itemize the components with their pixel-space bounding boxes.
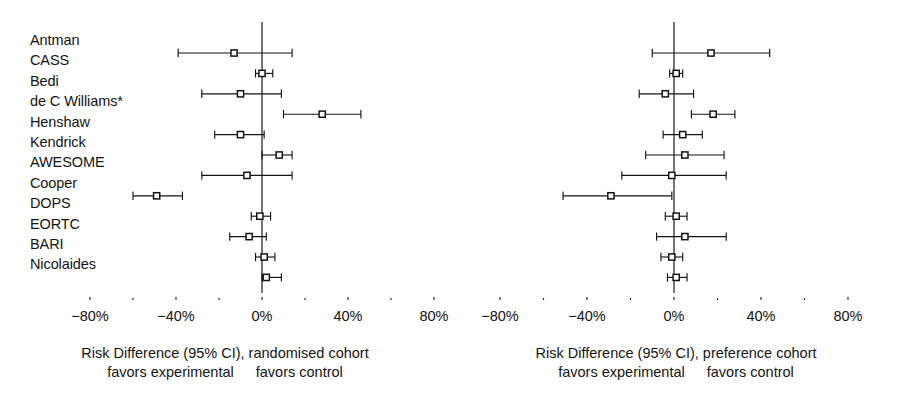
plot-area-left <box>0 0 450 300</box>
x-tick-label: 0% <box>252 308 273 325</box>
forest-panel-randomised: AntmanCASSBedide C Williams*HenshawKendr… <box>0 0 450 414</box>
x-tick-label: 0% <box>664 308 685 325</box>
favors-experimental-label-right: favors experimental <box>558 364 685 380</box>
x-axis-caption-left: Risk Difference (95% CI), randomised coh… <box>0 344 450 382</box>
effect-estimate-marker <box>257 213 263 219</box>
forest-row <box>251 212 270 220</box>
forest-row <box>665 212 687 220</box>
effect-estimate-marker <box>608 193 614 199</box>
forest-plot-svg-right <box>451 0 901 300</box>
forest-row <box>133 192 182 200</box>
effect-estimate-marker <box>682 234 688 240</box>
forest-row <box>215 130 264 138</box>
effect-estimate-marker <box>261 254 267 260</box>
effect-estimate-marker <box>662 91 668 97</box>
forest-row <box>661 253 683 261</box>
forest-row <box>230 232 267 240</box>
x-tick-label: −40% <box>157 308 195 325</box>
forest-row <box>667 273 687 281</box>
x-tick-label: −40% <box>568 308 606 325</box>
effect-estimate-marker <box>708 50 714 56</box>
forest-plot-svg-left <box>0 0 450 300</box>
effect-estimate-marker <box>673 274 679 280</box>
favors-control-label-left: favors control <box>256 364 343 380</box>
caption-favors-left: favors experimental favors control <box>0 363 450 382</box>
caption-main-left: Risk Difference (95% CI), randomised coh… <box>0 344 450 363</box>
forest-row <box>622 171 726 179</box>
effect-estimate-marker <box>231 50 237 56</box>
forest-row <box>646 151 724 159</box>
x-tick-label: 40% <box>333 308 362 325</box>
x-tick-label: 80% <box>419 308 448 325</box>
effect-estimate-marker <box>259 70 265 76</box>
forest-row <box>657 232 727 240</box>
effect-estimate-marker <box>154 193 160 199</box>
favors-control-label-right: favors control <box>707 364 794 380</box>
forest-row <box>652 49 769 57</box>
forest-plot-figure: AntmanCASSBedide C Williams*HenshawKendr… <box>0 0 901 414</box>
effect-estimate-marker <box>246 234 252 240</box>
forest-row <box>202 171 292 179</box>
caption-favors-right: favors experimental favors control <box>451 363 901 382</box>
x-axis-tick-labels-left: −80%−40%0%40%80% <box>0 308 450 330</box>
forest-row <box>256 253 275 261</box>
effect-estimate-marker <box>669 172 675 178</box>
effect-estimate-marker <box>673 213 679 219</box>
x-tick-label: −80% <box>71 308 109 325</box>
effect-estimate-marker <box>682 152 688 158</box>
forest-row <box>663 130 702 138</box>
forest-row <box>202 90 282 98</box>
forest-panel-preference: −80%−40%0%40%80% Risk Difference (95% CI… <box>451 0 901 414</box>
effect-estimate-marker <box>680 132 686 138</box>
forest-row <box>262 273 281 281</box>
x-tick-label: 40% <box>746 308 775 325</box>
forest-row <box>178 49 292 57</box>
forest-row <box>670 69 683 77</box>
forest-row <box>639 90 693 98</box>
effect-estimate-marker <box>710 111 716 117</box>
effect-estimate-marker <box>673 70 679 76</box>
effect-estimate-marker <box>237 132 243 138</box>
x-axis-caption-right: Risk Difference (95% CI), preference coh… <box>451 344 901 382</box>
plot-area-right <box>451 0 901 300</box>
forest-row <box>691 110 735 118</box>
caption-main-right: Risk Difference (95% CI), preference coh… <box>451 344 901 363</box>
forest-row <box>256 69 273 77</box>
effect-estimate-marker <box>263 274 269 280</box>
x-tick-label: −80% <box>481 308 519 325</box>
effect-estimate-marker <box>319 111 325 117</box>
x-tick-label: 80% <box>833 308 862 325</box>
effect-estimate-marker <box>276 152 282 158</box>
forest-row <box>262 151 292 159</box>
effect-estimate-marker <box>669 254 675 260</box>
x-axis-tick-labels-right: −80%−40%0%40%80% <box>451 308 901 330</box>
forest-row <box>284 110 361 118</box>
effect-estimate-marker <box>244 172 250 178</box>
effect-estimate-marker <box>237 91 243 97</box>
forest-row <box>563 192 672 200</box>
favors-experimental-label-left: favors experimental <box>107 364 234 380</box>
